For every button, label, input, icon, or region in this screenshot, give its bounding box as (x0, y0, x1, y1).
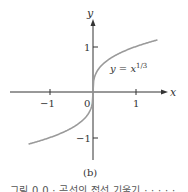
x-tick-label-1: 1 (133, 98, 139, 109)
y-tick-label-neg1: −1 (76, 133, 91, 144)
y-axis-arrow-icon (91, 19, 96, 26)
caption-text: 그림 0.0 · 곡선의 접선 기울기 · · · · · (0, 183, 188, 192)
x-tick-label-0: 0 (84, 98, 90, 109)
x-tick-label-neg1: −1 (40, 98, 55, 109)
curve-label: y = x1/3 (109, 62, 147, 74)
x-axis-label: x (170, 86, 177, 99)
y-tick-label-1: 1 (84, 42, 90, 53)
panel-label: (b) (83, 167, 97, 178)
figure-caption: 그림 0.0 · 곡선의 접선 기울기 · · · · · (0, 183, 188, 192)
y-axis-label: y (86, 7, 94, 20)
cube-root-graph: y x −1 0 1 1 −1 y = x1/3 (b) (0, 0, 188, 192)
x-axis-arrow-icon (161, 90, 168, 95)
